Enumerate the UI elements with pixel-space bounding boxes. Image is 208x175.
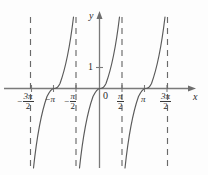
fraction-denominator: 2	[23, 102, 34, 111]
x-tick-label-neg-pi-over-two: −π2	[64, 92, 76, 111]
pi-symbol: π	[141, 94, 146, 104]
x-tick-label-pi-over-two: π2	[117, 92, 124, 111]
y-axis-label: y	[89, 11, 93, 21]
fraction-denominator: 2	[117, 102, 124, 111]
fraction-denominator: 2	[160, 102, 171, 111]
tangent-branch-right	[125, 17, 165, 168]
tangent-graph-figure: x y 1 0 −3π2 −π −π2 π2 π 3π2	[0, 0, 208, 175]
x-tick-label-neg-pi: −π	[45, 95, 55, 104]
plot-canvas	[0, 0, 208, 175]
y-tick-label-one: 1	[88, 62, 93, 72]
x-tick-label-three-pi-over-two: 3π2	[160, 92, 171, 111]
x-axis-label: x	[193, 92, 197, 102]
x-tick-label-origin: 0	[103, 91, 108, 101]
x-tick-label-pi: π	[141, 95, 146, 104]
pi-symbol: π	[51, 94, 56, 104]
fraction-denominator: 2	[70, 102, 77, 111]
x-tick-label-neg-three-pi-over-two: −3π2	[17, 92, 34, 111]
